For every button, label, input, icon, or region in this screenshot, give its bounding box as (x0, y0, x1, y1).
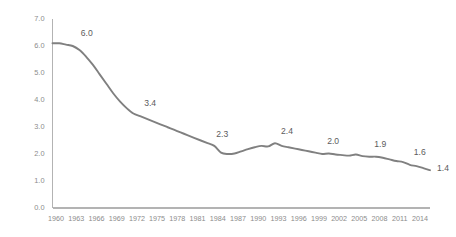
y-tick-label: 0.0 (34, 203, 44, 212)
y-axis-tick-labels: 0.01.02.03.04.05.06.07.0 (34, 14, 44, 212)
data-point-label: 1.9 (374, 139, 386, 149)
data-series-line (53, 43, 431, 170)
y-tick-label: 1.0 (34, 176, 44, 185)
x-tick-label: 1993 (270, 214, 286, 223)
y-tick-label: 5.0 (34, 68, 44, 77)
y-tick-label: 6.0 (34, 41, 44, 50)
x-tick-label: 1981 (190, 214, 206, 223)
data-point-label: 1.4 (437, 163, 449, 173)
x-tick-label: 1960 (48, 214, 64, 223)
x-tick-label: 2008 (372, 214, 388, 223)
x-tick-label: 2011 (392, 214, 407, 223)
x-tick-label: 1990 (250, 214, 266, 223)
x-tick-label: 1984 (210, 214, 226, 223)
data-point-label: 6.0 (81, 28, 93, 38)
y-tick-label: 2.0 (34, 149, 44, 158)
x-tick-label: 1978 (169, 214, 185, 223)
x-tick-label: 2002 (331, 214, 347, 223)
x-axis-tick-labels: 1960196319661969197219751978198119841987… (48, 214, 428, 223)
x-tick-label: 1975 (149, 214, 165, 223)
data-point-label: 1.6 (414, 147, 426, 157)
data-point-labels: 6.03.42.32.42.01.91.61.4 (81, 28, 449, 173)
x-tick-label: 1972 (129, 214, 145, 223)
x-tick-label: 1996 (291, 214, 307, 223)
data-point-label: 2.0 (327, 136, 339, 146)
x-tick-label: 1963 (68, 214, 84, 223)
x-tick-label: 1969 (109, 214, 125, 223)
data-point-label: 2.3 (216, 129, 228, 139)
x-tick-label: 1999 (311, 214, 327, 223)
line-chart-figure: 0.01.02.03.04.05.06.07.0 196019631966196… (0, 0, 456, 237)
chart-canvas: 0.01.02.03.04.05.06.07.0 196019631966196… (0, 0, 456, 237)
x-tick-label: 1966 (88, 214, 104, 223)
x-tick-label: 2005 (351, 214, 367, 223)
x-tick-label: 1987 (230, 214, 246, 223)
y-tick-label: 3.0 (34, 122, 44, 131)
data-point-label: 3.4 (144, 98, 156, 108)
data-point-label: 2.4 (281, 126, 293, 136)
y-tick-label: 7.0 (34, 14, 44, 23)
x-tick-label: 2014 (412, 214, 428, 223)
y-tick-label: 4.0 (34, 95, 44, 104)
